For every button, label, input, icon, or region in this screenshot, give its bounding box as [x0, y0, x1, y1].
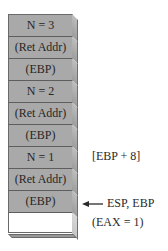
stack-cell-label: (EBP) — [26, 194, 56, 209]
esp-ebp-label: ESP, EBP — [107, 196, 154, 211]
stack-cell-n2: N = 2 — [8, 80, 73, 102]
stack-cell-label: (EBP) — [26, 62, 56, 77]
stack-cell-ret-addr-3: (Ret Addr) — [8, 36, 73, 58]
stack-column: N = 3 (Ret Addr) (EBP) N = 2 (Ret Addr) … — [8, 14, 73, 233]
stack-cell-label: (EBP) — [26, 128, 56, 143]
stack-cell-label: N = 1 — [27, 150, 54, 165]
stack-cell-ebp-1: (EBP) — [8, 190, 73, 212]
eax-return-label: (EAX = 1) — [92, 215, 143, 230]
stack-cell-ret-addr-1: (Ret Addr) — [8, 168, 73, 190]
stack-cell-n3: N = 3 — [8, 14, 73, 36]
stack-cell-label: (Ret Addr) — [15, 106, 67, 121]
stack-cell-ebp-3: (EBP) — [8, 58, 73, 80]
stack-cell-ret-addr-2: (Ret Addr) — [8, 102, 73, 124]
left-arrow-icon — [82, 199, 103, 209]
ebp-offset-label: [EBP + 8] — [92, 149, 140, 164]
stack-cell-label: (Ret Addr) — [15, 172, 67, 187]
stack-cell-empty — [8, 212, 73, 233]
stack-cell-label: (Ret Addr) — [15, 40, 67, 55]
stack-cell-label: N = 3 — [27, 18, 54, 33]
stack-cell-label: N = 2 — [27, 84, 54, 99]
stack-cell-ebp-2: (EBP) — [8, 124, 73, 146]
esp-ebp-pointer: ESP, EBP — [82, 196, 154, 211]
stack-base-bevel — [8, 234, 77, 238]
stack-cell-n1: N = 1 — [8, 146, 73, 168]
